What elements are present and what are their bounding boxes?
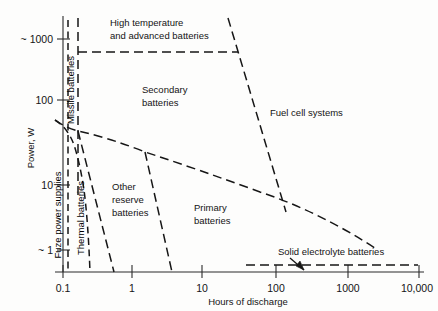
x-tick-label-100: 100: [267, 282, 285, 294]
label-secondary-batteries-line1: Secondary: [142, 84, 188, 95]
solid-electrolyte-arrow: [290, 258, 304, 270]
label-secondary-batteries-line2: batteries: [142, 97, 179, 108]
label-high-temperature-and-advanced-batteries-line1: High temperature: [110, 17, 183, 28]
label-primary-batteries-line1: Primary: [194, 202, 227, 213]
region-boundaries: [55, 18, 418, 272]
label-solid-electrolyte-batteries: Solid electrolyte batteries: [278, 246, 384, 257]
label-other-reserve-batteries-line1: Other: [112, 181, 136, 192]
log-log-battery-power-chart: ~ 1000 100 10 ~ 1 0.1 1 10 100 1000 10,0…: [0, 0, 438, 311]
y-tick-label-1: ~ 1: [38, 244, 53, 256]
label-high-temperature-and-advanced-batteries-line2: and advanced batteries: [110, 30, 209, 41]
label-other-reserve-batteries-line3: batteries: [112, 207, 149, 218]
label-fuel-cell-systems: Fuel cell systems: [270, 107, 343, 118]
x-tick-label-1: 1: [129, 282, 135, 294]
x-axis-title: Hours of discharge: [208, 296, 288, 307]
label-fuze-power-supplies: Fuze power supplies: [52, 171, 63, 258]
label-missile-batteries: Missile batteries: [65, 56, 76, 124]
label-other-reserve-batteries-line2: reserve: [112, 194, 144, 205]
y-tick-label-1000: ~ 1000: [21, 33, 54, 45]
label-primary-batteries-line2: batteries: [194, 215, 231, 226]
y-tick-label-100: 100: [35, 94, 53, 106]
x-axis-tick-labels: 0.1 1 10 100 1000 10,000: [56, 282, 434, 294]
x-tick-label-10000: 10,000: [401, 282, 433, 294]
curve-other-reserve-batteries-decay: [145, 152, 172, 272]
x-tick-label-0.1: 0.1: [56, 282, 71, 294]
x-tick-label-1000: 1000: [336, 282, 360, 294]
x-tick-label-10: 10: [196, 282, 208, 294]
axes: [55, 16, 424, 272]
chart-figure: ~ 1000 100 10 ~ 1 0.1 1 10 100 1000 10,0…: [0, 0, 438, 311]
y-axis-title: Power, W: [25, 128, 36, 169]
label-thermal-batteries: Thermal batteries: [75, 181, 86, 255]
